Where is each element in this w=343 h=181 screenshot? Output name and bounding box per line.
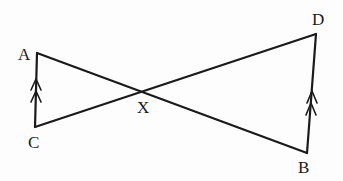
point-label-a: A (18, 45, 31, 64)
segment-cd (35, 34, 316, 127)
point-label-d: D (312, 10, 324, 29)
point-label-c: C (28, 133, 39, 152)
segment-ac (35, 53, 37, 127)
geometry-canvas: A C X D B (0, 0, 343, 181)
segment-ab (37, 53, 307, 153)
point-label-x: X (137, 98, 149, 117)
point-label-b: B (298, 158, 309, 177)
diagram-figure: A C X D B (0, 0, 343, 181)
